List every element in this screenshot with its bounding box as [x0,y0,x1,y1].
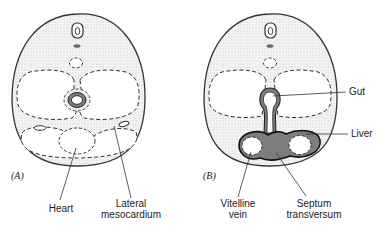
left-coelom-b [209,70,266,117]
right-coelom-b [274,70,331,117]
panel-b-diagram [204,14,348,197]
label-vitelline-vein: Vitelline vein [218,198,258,220]
neural-tube-a [72,23,83,38]
label-vitelline-vein-line2: vein [218,209,258,220]
label-heart: Heart [44,203,78,214]
neural-tube-b [265,23,276,38]
label-septum-transversum-line1: Septum [284,198,344,209]
label-lateral-mesocardium-line2: mesocardium [100,209,162,220]
panel-label-b: (B) [203,170,216,181]
label-lateral-mesocardium: Lateral mesocardium [100,198,162,220]
notochord-a [74,44,81,48]
notochord-b [267,44,274,48]
label-lateral-mesocardium-line1: Lateral [100,198,162,209]
label-liver: Liver [351,128,379,139]
heart-a [59,128,95,154]
label-vitelline-vein-line1: Vitelline [218,198,258,209]
embryo-cross-section-diagram [0,0,382,227]
label-septum-transversum-line2: transversum [284,209,344,220]
vitelline-vein-right [289,136,311,155]
panel-a-diagram [12,14,145,200]
panel-label-a: (A) [11,170,24,181]
vitelline-vein-left [242,137,262,155]
label-septum-transversum: Septum transversum [284,198,344,220]
label-gut: Gut [349,86,371,97]
